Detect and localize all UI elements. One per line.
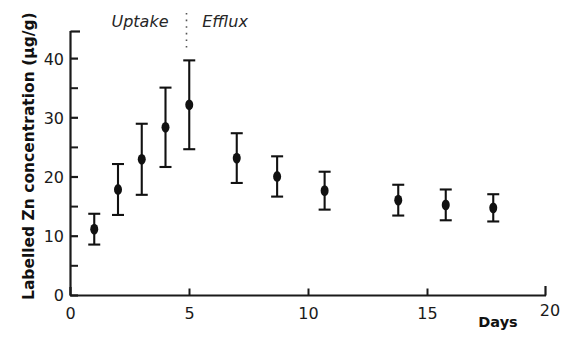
data-point — [319, 172, 331, 210]
data-point — [440, 189, 452, 220]
y-tick-label-0: 0 — [54, 286, 64, 305]
data-point-marker — [394, 195, 402, 206]
x-axis-title: Days — [478, 314, 517, 330]
efflux-label: Efflux — [202, 12, 248, 31]
x-tick-label-10: 10 — [298, 304, 318, 323]
y-tick-label-10: 10 — [44, 227, 64, 246]
y-tick-label-20: 20 — [44, 168, 64, 187]
data-point-marker — [489, 202, 497, 213]
data-point-marker — [273, 171, 281, 182]
data-point — [160, 88, 172, 167]
chart-figure: 0 10 20 30 40 0 5 10 15 20 Labelled Zn c… — [0, 0, 576, 339]
data-point — [112, 164, 124, 215]
data-point — [183, 60, 195, 149]
y-axis-title: Labelled Zn concentration (μg/g) — [20, 12, 38, 300]
data-point-marker — [321, 185, 329, 196]
data-point-marker — [233, 153, 241, 164]
uptake-label: Uptake — [111, 12, 168, 31]
x-tick-label-15: 15 — [417, 304, 437, 323]
data-point — [136, 124, 148, 195]
data-point — [88, 214, 100, 245]
data-points-layer — [88, 60, 499, 244]
data-point — [487, 194, 499, 221]
data-point-marker — [162, 122, 170, 133]
data-point-marker — [442, 199, 450, 210]
data-point-marker — [185, 99, 193, 110]
data-point — [231, 133, 243, 183]
data-point-marker — [138, 154, 146, 165]
data-point-marker — [114, 184, 122, 195]
x-tick-label-0: 0 — [65, 304, 75, 323]
x-axis-ticks — [71, 287, 428, 296]
scatter-plot-svg: 0 10 20 30 40 0 5 10 15 20 Labelled Zn c… — [0, 0, 576, 339]
data-point — [392, 185, 404, 216]
x-tick-label-5: 5 — [184, 304, 194, 323]
data-point — [271, 156, 283, 196]
data-point-marker — [90, 224, 98, 235]
y-axis-tick-labels: 0 10 20 30 40 — [44, 50, 64, 305]
x-tick-label-20: 20 — [540, 301, 560, 320]
y-tick-label-30: 30 — [44, 109, 64, 128]
y-axis-ticks — [71, 59, 79, 296]
y-tick-label-40: 40 — [44, 50, 64, 69]
